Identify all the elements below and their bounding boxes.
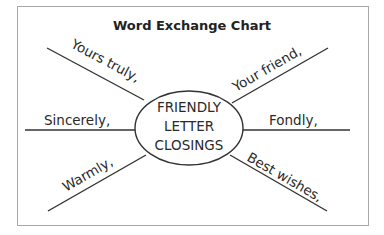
center-label-line-1: FRIENDLY xyxy=(157,99,222,115)
spoke-label-left: Sincerely, xyxy=(44,112,110,128)
word-exchange-chart: Word Exchange Chart FRIENDLY LETTER CLOS… xyxy=(0,0,384,235)
center-label-line-2: LETTER xyxy=(164,118,214,134)
chart-title: Word Exchange Chart xyxy=(113,18,271,33)
spoke-label-top-left: Yours truly, xyxy=(68,35,143,85)
spoke-label-bottom-right: Best wishes, xyxy=(245,149,326,205)
spoke-label-right: Fondly, xyxy=(269,112,318,128)
center-label-line-3: CLOSINGS xyxy=(155,137,224,153)
